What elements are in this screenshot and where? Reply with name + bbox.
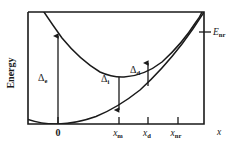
y-axis-label: Energy	[5, 57, 16, 88]
x-axis-label: x	[216, 127, 222, 137]
excited-state-parabola	[44, 12, 202, 77]
delta-d-label-sub: d	[136, 69, 140, 76]
x-tick-label-xm: xm	[112, 128, 123, 139]
enr-label: Enr	[212, 27, 225, 38]
x-tick-label-xd: xd	[142, 128, 151, 139]
x-tick-label-zero: 0	[56, 127, 61, 138]
x-tick-label-xm-sub: m	[117, 132, 123, 139]
figure-container: Energy x 0 xm xd xnr Enr Δe Δi Δd	[0, 0, 237, 146]
x-tick-label-xd-sub: d	[147, 132, 151, 139]
delta-d-label: Δd	[130, 64, 140, 76]
ground-state-parabola	[28, 12, 204, 124]
delta-i-label-sub: i	[107, 78, 109, 85]
delta-e-label-sub: e	[44, 77, 47, 84]
x-tick-label-xnr-sub: nr	[175, 132, 182, 139]
enr-label-sub: nr	[219, 31, 226, 38]
configuration-coordinate-diagram: Energy x 0 xm xd xnr Enr Δe Δi Δd	[0, 0, 237, 146]
delta-e-label: Δe	[38, 72, 47, 84]
x-tick-label-xnr: xnr	[170, 128, 182, 139]
